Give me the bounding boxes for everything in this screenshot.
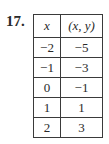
cell-x: 0 [34, 78, 61, 98]
table-row: 0 −1 [34, 78, 103, 98]
cell-y: 3 [61, 118, 103, 138]
xy-table: x (x, y) −2 −5 −1 −3 0 −1 1 1 2 3 [33, 14, 103, 138]
cell-x: 2 [34, 118, 61, 138]
table-row: −2 −5 [34, 38, 103, 58]
table-row: 2 3 [34, 118, 103, 138]
cell-y: −5 [61, 38, 103, 58]
cell-x: 1 [34, 98, 61, 118]
cell-y: −3 [61, 58, 103, 78]
cell-y: −1 [61, 78, 103, 98]
cell-y: 1 [61, 98, 103, 118]
cell-x: −1 [34, 58, 61, 78]
header-x: x [34, 15, 61, 38]
problem-number: 17. [6, 14, 25, 29]
cell-x: −2 [34, 38, 61, 58]
table-header-row: x (x, y) [34, 15, 103, 38]
table-row: −1 −3 [34, 58, 103, 78]
header-xy: (x, y) [61, 15, 103, 38]
table-row: 1 1 [34, 98, 103, 118]
